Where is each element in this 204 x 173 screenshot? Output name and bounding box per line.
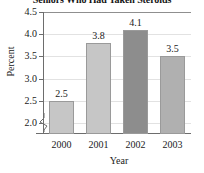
y-axis-tick [39,34,44,35]
y-axis-tick [39,101,44,102]
bar [86,43,111,134]
y-axis-tick [39,56,44,57]
bar [123,30,148,134]
bar [160,56,185,134]
bar [49,101,74,134]
gridline [43,12,191,13]
y-axis-tick [39,123,44,124]
y-axis-tick-label: 4.0 [7,29,37,39]
bar-value-label: 4.1 [116,17,156,28]
y-axis-tick-label: 2.5 [7,96,37,106]
bar-value-label: 3.8 [79,30,119,41]
y-axis-tick-label: 3.5 [7,51,37,61]
plot-area: 2.02.53.03.54.04.5 2.53.84.13.5 20002001… [43,12,191,134]
bar-value-label: 3.5 [153,43,193,54]
bar-value-label: 2.5 [42,88,82,99]
y-axis-tick-label: 2.0 [7,118,37,128]
chart-title: Seniors Who Had Taken Steroids [0,0,204,5]
y-axis-tick [39,12,44,13]
y-axis-tick-label: 3.0 [7,74,37,84]
x-axis-tick-label: 2003 [151,139,195,150]
y-axis-tick-label: 4.5 [7,7,37,17]
x-axis-label: Year [38,155,200,166]
y-axis-tick [39,79,44,80]
bar-chart-figure: Seniors Who Had Taken Steroids Percent 2… [0,0,204,173]
